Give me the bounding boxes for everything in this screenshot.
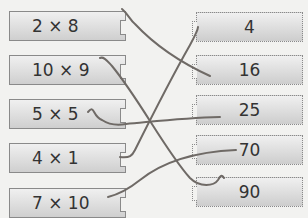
connector-notch bbox=[120, 20, 126, 35]
right-item-label: 4 bbox=[197, 17, 302, 37]
left-item-4x1[interactable]: 4 × 1 bbox=[9, 143, 126, 173]
left-item-10x9[interactable]: 10 × 9 bbox=[9, 55, 126, 85]
right-item-label: 90 bbox=[197, 182, 302, 202]
connector-notch bbox=[120, 197, 126, 212]
right-item-70[interactable]: 70 bbox=[196, 135, 303, 165]
right-item-label: 16 bbox=[197, 60, 302, 80]
left-item-7x10[interactable]: 7 × 10 bbox=[9, 188, 126, 218]
right-item-90[interactable]: 90 bbox=[196, 177, 303, 207]
left-item-label: 2 × 8 bbox=[32, 16, 79, 36]
left-item-2x8[interactable]: 2 × 8 bbox=[9, 11, 126, 41]
connector-notch bbox=[120, 152, 126, 167]
right-item-4[interactable]: 4 bbox=[196, 12, 303, 42]
right-item-label: 70 bbox=[197, 140, 302, 160]
right-item-16[interactable]: 16 bbox=[196, 55, 303, 85]
connector-notch bbox=[120, 108, 126, 123]
line-4x1-to-4 bbox=[120, 27, 198, 157]
left-item-label: 10 × 9 bbox=[32, 60, 90, 80]
left-item-5x5[interactable]: 5 × 5 bbox=[9, 99, 126, 129]
left-item-label: 5 × 5 bbox=[32, 104, 79, 124]
left-item-label: 4 × 1 bbox=[32, 148, 79, 168]
left-item-label: 7 × 10 bbox=[32, 193, 90, 213]
right-item-label: 25 bbox=[197, 100, 302, 120]
right-item-25[interactable]: 25 bbox=[196, 95, 303, 125]
connector-notch bbox=[120, 64, 126, 79]
